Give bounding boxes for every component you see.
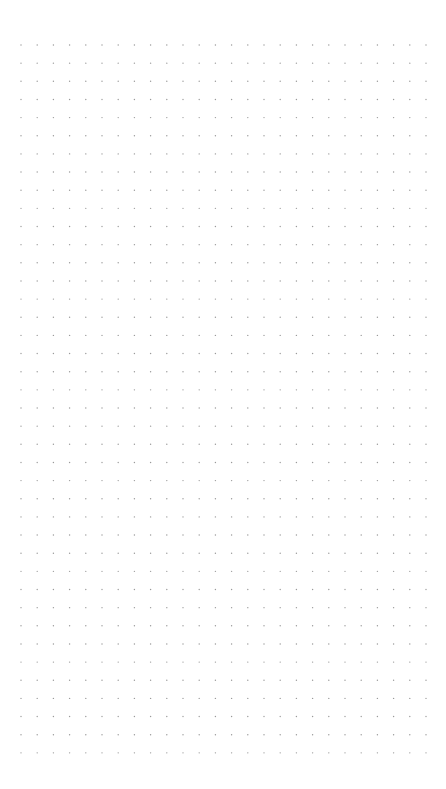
- grid-dot: [182, 716, 183, 717]
- grid-dot: [361, 153, 362, 154]
- grid-dot: [53, 480, 54, 481]
- grid-dot: [37, 607, 38, 608]
- grid-dot: [263, 425, 264, 426]
- grid-dot: [247, 698, 248, 699]
- grid-dot: [215, 99, 216, 100]
- grid-dot: [328, 226, 329, 227]
- grid-dot: [328, 498, 329, 499]
- grid-dot: [425, 135, 426, 136]
- grid-dot: [134, 661, 135, 662]
- grid-dot: [312, 462, 313, 463]
- grid-dot: [118, 171, 119, 172]
- grid-dot: [328, 389, 329, 390]
- grid-dot: [312, 752, 313, 753]
- grid-dot: [280, 135, 281, 136]
- grid-dot: [215, 589, 216, 590]
- grid-dot: [393, 135, 394, 136]
- grid-dot: [20, 81, 21, 82]
- grid-dot: [425, 752, 426, 753]
- grid-dot: [296, 335, 297, 336]
- grid-dot: [328, 444, 329, 445]
- grid-dot: [361, 389, 362, 390]
- grid-dot: [182, 734, 183, 735]
- grid-dot: [134, 335, 135, 336]
- grid-dot: [344, 62, 345, 63]
- grid-dot: [409, 335, 410, 336]
- grid-dot: [361, 135, 362, 136]
- grid-dot: [199, 99, 200, 100]
- grid-dot: [53, 752, 54, 753]
- grid-dot: [85, 117, 86, 118]
- grid-dot: [344, 44, 345, 45]
- grid-dot: [69, 171, 70, 172]
- grid-dot: [53, 317, 54, 318]
- grid-dot: [20, 353, 21, 354]
- grid-dot: [69, 571, 70, 572]
- grid-dot: [312, 171, 313, 172]
- grid-dot: [393, 353, 394, 354]
- grid-dot: [53, 244, 54, 245]
- grid-dot: [328, 407, 329, 408]
- grid-dot: [377, 589, 378, 590]
- grid-dot: [328, 317, 329, 318]
- grid-dot: [344, 716, 345, 717]
- grid-dot: [377, 698, 378, 699]
- grid-dot: [101, 190, 102, 191]
- grid-dot: [118, 752, 119, 753]
- grid-dot: [101, 534, 102, 535]
- grid-dot: [409, 643, 410, 644]
- grid-dot: [53, 498, 54, 499]
- grid-dot: [409, 407, 410, 408]
- grid-dot: [53, 462, 54, 463]
- grid-dot: [69, 661, 70, 662]
- grid-dot: [166, 226, 167, 227]
- grid-dot: [247, 135, 248, 136]
- grid-dot: [312, 716, 313, 717]
- grid-dot: [280, 462, 281, 463]
- grid-dot: [37, 589, 38, 590]
- grid-dot: [199, 298, 200, 299]
- grid-dot: [166, 589, 167, 590]
- grid-dot: [344, 444, 345, 445]
- grid-dot: [134, 99, 135, 100]
- grid-dot: [361, 734, 362, 735]
- grid-dot: [247, 280, 248, 281]
- grid-dot: [409, 280, 410, 281]
- grid-dot: [312, 62, 313, 63]
- grid-dot: [393, 480, 394, 481]
- grid-dot: [37, 534, 38, 535]
- grid-dot: [134, 444, 135, 445]
- grid-dot: [393, 44, 394, 45]
- grid-dot: [280, 335, 281, 336]
- grid-dot: [134, 298, 135, 299]
- grid-dot: [199, 62, 200, 63]
- grid-dot: [85, 371, 86, 372]
- grid-dot: [247, 81, 248, 82]
- grid-dot: [166, 498, 167, 499]
- grid-dot: [344, 226, 345, 227]
- grid-dot: [263, 498, 264, 499]
- grid-dot: [377, 716, 378, 717]
- grid-dot: [361, 498, 362, 499]
- grid-dot: [280, 553, 281, 554]
- grid-dot: [312, 190, 313, 191]
- grid-dot: [182, 498, 183, 499]
- grid-dot: [166, 262, 167, 263]
- grid-dot: [134, 44, 135, 45]
- grid-dot: [425, 698, 426, 699]
- grid-dot: [247, 244, 248, 245]
- grid-dot: [182, 226, 183, 227]
- grid-dot: [69, 516, 70, 517]
- grid-dot: [101, 153, 102, 154]
- grid-dot: [215, 371, 216, 372]
- grid-dot: [37, 698, 38, 699]
- grid-dot: [69, 553, 70, 554]
- grid-dot: [247, 298, 248, 299]
- grid-dot: [296, 44, 297, 45]
- grid-dot: [409, 298, 410, 299]
- grid-dot: [134, 698, 135, 699]
- grid-dot: [118, 498, 119, 499]
- grid-dot: [328, 135, 329, 136]
- grid-dot: [280, 661, 281, 662]
- grid-dot: [296, 280, 297, 281]
